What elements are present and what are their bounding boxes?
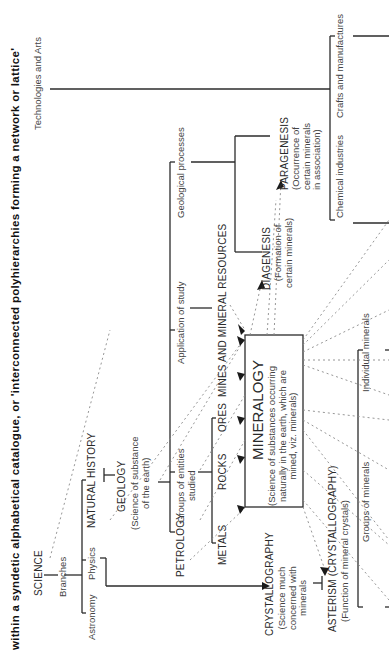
node-chemical: Chemical industries [335, 135, 346, 218]
node-astronomy: Astronomy [87, 595, 98, 640]
node-rocks: ROCKS [218, 453, 229, 490]
node-mines: MINES AND MINERAL RESOURCES [218, 224, 229, 397]
node-crystallography: CRYSTALLOGRAPHY [265, 532, 276, 636]
node-crafts: Crafts and manufactures [335, 14, 346, 118]
node-diagenesis-desc: (Formation of certain minerals) [273, 218, 294, 288]
node-physics: Physics [87, 547, 98, 580]
node-technologies: Technologies and Arts [33, 37, 44, 130]
node-geology-desc: (Science of substance of the earth) [130, 437, 151, 530]
node-geological-processes: Geological processes [176, 127, 187, 218]
node-branches: Branches [58, 557, 69, 597]
node-science: SCIENCE [34, 550, 45, 596]
node-paragenesis-desc: (Occurrence of certain minerals in assoc… [291, 123, 323, 190]
node-individual-minerals: Individual minerals [361, 313, 372, 392]
node-metals: METALS [218, 525, 229, 565]
node-asterism-desc: (Function of mineral crystals) [340, 500, 351, 622]
figure-caption: within a syndetic alphabetical catalogue… [10, 48, 21, 650]
node-mineralogy: MINERALOGY [250, 360, 266, 460]
node-natural-history: NATURAL HISTORY [87, 433, 98, 528]
node-crystallography-desc: (Science much concerned with minerals [277, 566, 309, 630]
node-mineralogy-desc: (Science of substances occurring natural… [267, 366, 299, 506]
node-asterism: ASTERISM (CRYSTALLOGRAPHY) [328, 465, 339, 632]
node-ores: ORES [218, 403, 229, 432]
node-geology: GEOLOGY [117, 461, 128, 512]
node-paragenesis: PARAGENESIS [280, 117, 291, 190]
node-groups-minerals: Groups of minerals [361, 462, 372, 542]
node-application: Application of study [176, 282, 187, 364]
node-diagenesis: DIAGENESIS [262, 227, 273, 290]
node-groups-entities: Groups of entities studied [176, 449, 197, 523]
